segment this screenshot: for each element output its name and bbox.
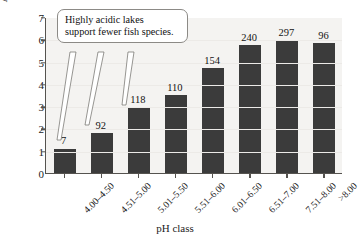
bar [91, 133, 113, 173]
x-tick-mark [212, 174, 213, 178]
x-tick-mark [64, 174, 65, 178]
background-band [46, 107, 342, 108]
bar-value-label: 118 [118, 94, 158, 105]
x-tick-label: >8.00 [336, 180, 359, 203]
bar-value-label: 154 [192, 55, 232, 66]
bar-value-label: 96 [303, 30, 343, 41]
bar-value-label: 110 [155, 82, 195, 93]
background-band [46, 152, 342, 153]
callout-box: Highly acidic lakes support fewer fish s… [57, 9, 188, 43]
bar [128, 107, 150, 173]
callout-line-2: support fewer fish species. [65, 26, 181, 38]
y-tick-label: 0 [24, 168, 44, 180]
x-tick-label: 4.00–4.50 [81, 180, 116, 215]
x-tick-label: 6.01–6.50 [229, 180, 264, 215]
x-tick-label: 5.01–5.50 [155, 180, 190, 215]
x-tick-label: 6.51–7.00 [266, 180, 301, 215]
x-tick-mark [101, 174, 102, 178]
x-tick-mark [286, 174, 287, 178]
x-tick-label: 4.51–5.00 [118, 180, 153, 215]
bar-value-label: 297 [266, 27, 306, 38]
x-tick-label: 5.51–6.00 [192, 180, 227, 215]
x-tick-mark [249, 174, 250, 178]
bar-value-label: 240 [229, 32, 269, 43]
callout-line-1: Highly acidic lakes [65, 14, 181, 26]
x-axis-title: pH class [0, 222, 350, 234]
bar-value-label: 92 [81, 120, 121, 131]
x-tick-mark [175, 174, 176, 178]
x-tick-mark [138, 174, 139, 178]
x-tick-mark [323, 174, 324, 178]
bar-value-label: 7 [44, 135, 84, 146]
y-axis-title: Average number of fish species [0, 0, 9, 16]
bar [239, 45, 261, 173]
x-tick-label: 7.51–8.00 [304, 180, 339, 215]
